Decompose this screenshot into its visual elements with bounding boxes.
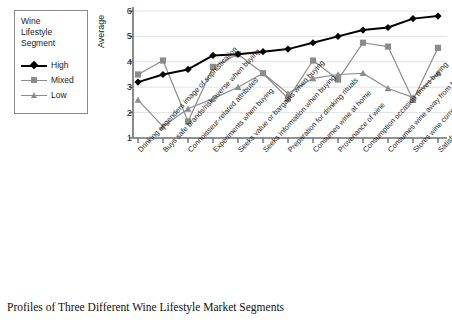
y-axis-tick-labels: 123456 [112,0,132,150]
data-point-high [384,24,391,31]
data-point-low [385,85,392,91]
y-tick-label: 4 [118,57,132,67]
data-point-high [334,33,341,40]
y-tick-label: 3 [118,82,132,92]
x-axis-tick-labels: Drinking engenders image of sophisticati… [0,146,452,321]
y-tick-label: 1 [118,133,132,143]
data-point-high [159,71,166,78]
data-point-low [135,97,142,103]
y-tick-label: 5 [118,31,132,41]
figure-caption: Profiles of Three Different Wine Lifesty… [7,301,284,313]
y-tick-label: 2 [118,108,132,118]
data-point-high [309,39,316,46]
data-point-high [409,15,416,22]
data-point-high [434,12,441,19]
y-tick-label: 6 [118,6,132,16]
data-point-mixed [135,71,141,77]
y-axis-label: Average [96,15,106,48]
data-point-mixed [360,40,366,46]
data-point-mixed [435,45,441,51]
data-point-mixed [385,43,391,49]
figure: Wine Lifestyle Segment HighMixedLow Aver… [0,0,452,325]
data-point-mixed [160,57,166,63]
data-point-high [359,26,366,33]
data-point-high [134,79,141,86]
data-point-high [284,46,291,53]
